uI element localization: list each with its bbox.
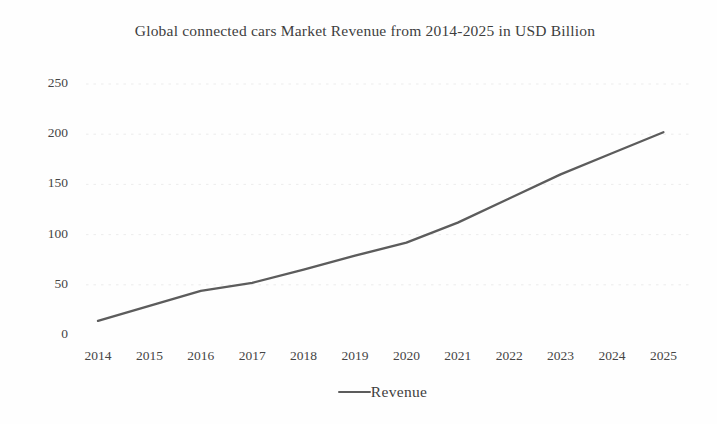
x-tick-label-2019: 2019 — [342, 348, 369, 364]
x-tick-label-2017: 2017 — [239, 348, 266, 364]
x-tick-label-2016: 2016 — [187, 348, 214, 364]
x-tick-label-2021: 2021 — [444, 348, 471, 364]
x-tick-label-2018: 2018 — [290, 348, 317, 364]
x-tick-label-2015: 2015 — [136, 348, 163, 364]
x-tick-label-2023: 2023 — [547, 348, 574, 364]
x-tick-label-2020: 2020 — [393, 348, 420, 364]
y-tick-label-250: 250 — [28, 75, 68, 91]
x-tick-label-2024: 2024 — [599, 348, 626, 364]
y-tick-label-50: 50 — [28, 276, 68, 292]
x-tick-label-2025: 2025 — [650, 348, 677, 364]
y-tick-label-200: 200 — [28, 125, 68, 141]
gridlines — [86, 84, 689, 285]
x-tick-label-2022: 2022 — [496, 348, 523, 364]
x-tick-label-2014: 2014 — [85, 348, 112, 364]
y-tick-label-100: 100 — [28, 226, 68, 242]
revenue-line-series — [98, 132, 663, 321]
y-tick-label-0: 0 — [28, 326, 68, 342]
chart-figure: Global connected cars Market Revenue fro… — [0, 0, 717, 424]
y-tick-label-150: 150 — [28, 175, 68, 191]
